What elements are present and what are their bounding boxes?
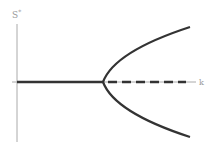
lower-branch <box>103 82 190 137</box>
y-axis-label: S* <box>12 8 21 20</box>
x-axis-label: k <box>199 78 204 87</box>
upper-branch <box>103 27 190 82</box>
bifurcation-diagram: S* k <box>0 0 220 146</box>
